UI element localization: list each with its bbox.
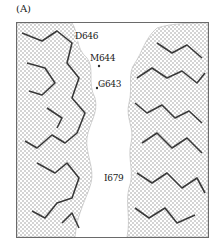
panel-label: (A) xyxy=(16,3,31,14)
residue-label-m644: M644 xyxy=(90,53,115,63)
right-density-region xyxy=(127,23,208,237)
residue-label-i679: I679 xyxy=(104,173,124,183)
residue-label-d646: D646 xyxy=(75,31,98,41)
residue-label-g643: G643 xyxy=(98,79,121,89)
